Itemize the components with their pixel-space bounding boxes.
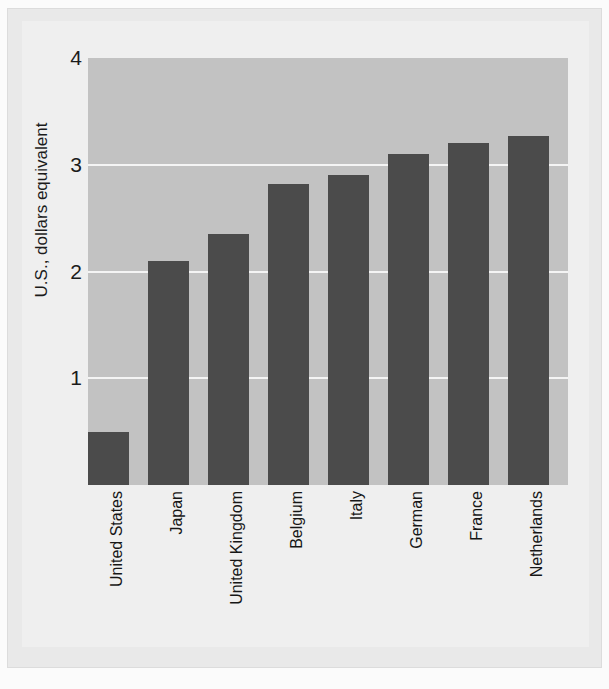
bar bbox=[148, 261, 189, 485]
bar bbox=[448, 143, 489, 485]
x-tick-label: Netherlands bbox=[508, 485, 549, 655]
bar bbox=[208, 234, 249, 485]
bar bbox=[268, 184, 309, 485]
x-tick-label: Italy bbox=[328, 485, 369, 655]
y-tick-label-1: 1 bbox=[12, 367, 82, 388]
y-tick-label-4: 4 bbox=[12, 47, 82, 68]
bar-series bbox=[88, 58, 568, 485]
x-tick-label: Japan bbox=[148, 485, 189, 655]
x-tick-label: United Kingdom bbox=[208, 485, 249, 655]
x-tick-label: France bbox=[448, 485, 489, 655]
x-tick-label-text: France bbox=[469, 491, 485, 541]
y-tick-label-2: 2 bbox=[12, 261, 82, 282]
y-tick-label-3: 3 bbox=[12, 154, 82, 175]
x-tick-label: German bbox=[388, 485, 429, 655]
bar bbox=[88, 432, 129, 485]
x-tick-label-text: Netherlands bbox=[529, 491, 545, 577]
x-tick-label-text: Belgium bbox=[289, 491, 305, 549]
x-axis-tick-labels: United StatesJapanUnited KingdomBelgiumI… bbox=[88, 485, 568, 665]
y-axis-tick-labels: 1234 bbox=[8, 0, 82, 689]
x-tick-label: Belgium bbox=[268, 485, 309, 655]
bar bbox=[328, 175, 369, 485]
x-tick-label-text: United Kingdom bbox=[229, 491, 245, 605]
bar bbox=[388, 154, 429, 485]
bar bbox=[508, 136, 549, 485]
bar-chart-figure: U.S., dollars equivalent 1234 United Sta… bbox=[0, 0, 609, 689]
x-tick-label-text: United States bbox=[109, 491, 125, 587]
x-tick-label-text: German bbox=[409, 491, 425, 549]
x-tick-label-text: Italy bbox=[349, 491, 365, 520]
x-tick-label-text: Japan bbox=[169, 491, 185, 535]
page-canvas: U.S., dollars equivalent 1234 United Sta… bbox=[0, 0, 609, 689]
plot-area bbox=[88, 58, 568, 485]
x-tick-label: United States bbox=[88, 485, 129, 655]
